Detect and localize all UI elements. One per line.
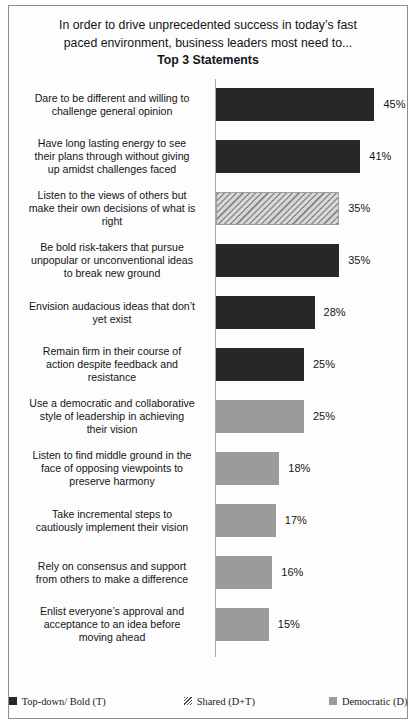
bar-category-label-line: Remain firm in their course of [13,345,211,358]
bar-track: 28% [216,296,407,329]
bar-value-label: 25% [313,410,335,422]
bar-row: Dare to be different and willing tochall… [9,79,407,131]
bar-category-label: Enlist everyone’s approval andacceptance… [13,605,211,645]
bar-category-label: Listen to find middle ground in theface … [13,449,211,489]
bar-track: 25% [216,400,407,433]
chart-legend: Top-down/ Bold (T)Shared (D+T)Democratic… [9,690,407,712]
plot-area: Dare to be different and willing tochall… [9,79,407,657]
bar-topdown[interactable] [216,244,339,277]
bar-category-label-line: to break new ground [13,267,211,280]
bar-category-label-line: challenge general opinion [13,105,211,118]
legend-label: Democratic (D) [342,696,407,707]
bar-row: Remain firm in their course ofaction des… [9,339,407,391]
bar-category-label-line: their vision [13,423,211,436]
bar-row: Listen to find middle ground in theface … [9,443,407,495]
bar-democratic[interactable] [216,452,279,485]
legend-swatch-topdown-icon [9,697,17,705]
bar-democratic[interactable] [216,504,276,537]
chart-title-line-2: paced environment, business leaders most… [25,35,391,53]
bar-row: Take incremental steps tocautiously impl… [9,495,407,547]
legend-label: Shared (D+T) [197,696,255,707]
bar-category-label-line: up amidst challenges faced [13,163,211,176]
bar-shared[interactable] [216,192,339,225]
legend-label: Top-down/ Bold (T) [22,696,106,707]
bar-track: 41% [216,140,407,173]
chart-container: In order to drive unprecedented success … [8,5,408,719]
bar-category-label: Envision audacious ideas that don’tyet e… [13,299,211,325]
bar-value-label: 18% [288,462,310,474]
bar-row: Enlist everyone’s approval andacceptance… [9,599,407,651]
bar-row: Envision audacious ideas that don’tyet e… [9,287,407,339]
bar-row: Listen to the views of others butmake th… [9,183,407,235]
bar-track: 15% [216,608,407,641]
bar-category-label-line: acceptance to an idea before [13,618,211,631]
bar-category-label: Take incremental steps tocautiously impl… [13,507,211,533]
bar-category-label: Rely on consensus and supportfrom others… [13,559,211,585]
bar-track: 18% [216,452,407,485]
bar-category-label-line: yet exist [13,313,211,326]
bar-category-label-line: make their own decisions of what is [13,202,211,215]
bar-row: Use a democratic and collaborativestyle … [9,391,407,443]
legend-item-shared[interactable]: Shared (D+T) [184,696,255,707]
bar-value-label: 35% [348,254,370,266]
bar-category-label-line: Use a democratic and collaborative [13,397,211,410]
bar-row: Have long lasting energy to seetheir pla… [9,131,407,183]
bar-topdown[interactable] [216,348,304,381]
legend-swatch-democratic-icon [329,697,337,705]
bar-track: 35% [216,192,407,225]
bar-category-label-line: face of opposing viewpoints to [13,462,211,475]
bar-category-label-line: Listen to the views of others but [13,189,211,202]
bar-track: 45% [216,88,407,121]
bar-category-label-line: Have long lasting energy to see [13,137,211,150]
bar-category-label: Use a democratic and collaborativestyle … [13,397,211,437]
bar-row: Be bold risk-takers that pursueunpopular… [9,235,407,287]
bar-category-label-line: action despite feedback and [13,358,211,371]
bar-topdown[interactable] [216,88,374,121]
bar-category-label-line: unpopular or unconventional ideas [13,254,211,267]
bar-category-label: Remain firm in their course ofaction des… [13,345,211,385]
bar-topdown[interactable] [216,140,360,173]
bar-value-label: 17% [285,514,307,526]
bar-track: 25% [216,348,407,381]
legend-item-democratic[interactable]: Democratic (D) [329,696,407,707]
bar-category-label-line: Listen to find middle ground in the [13,449,211,462]
bar-track: 16% [216,556,407,589]
bar-category-label-line: from others to make a difference [13,573,211,586]
bar-category-label-line: Dare to be different and willing to [13,91,211,104]
bar-value-label: 16% [281,566,303,578]
bar-value-label: 41% [369,150,391,162]
legend-item-topdown[interactable]: Top-down/ Bold (T) [9,696,106,707]
bar-democratic[interactable] [216,556,272,589]
bar-category-label-line: preserve harmony [13,475,211,488]
bar-value-label: 35% [348,202,370,214]
bar-track: 17% [216,504,407,537]
bar-democratic[interactable] [216,400,304,433]
bar-category-label: Listen to the views of others butmake th… [13,189,211,229]
bar-category-label-line: Rely on consensus and support [13,559,211,572]
bar-democratic[interactable] [216,608,269,641]
bar-topdown[interactable] [216,296,315,329]
bar-row: Rely on consensus and supportfrom others… [9,547,407,599]
bar-category-label: Have long lasting energy to seetheir pla… [13,137,211,177]
chart-title: In order to drive unprecedented success … [9,6,407,70]
chart-subtitle: Top 3 Statements [25,52,391,70]
bar-track: 35% [216,244,407,277]
bar-category-label-line: Be bold risk-takers that pursue [13,241,211,254]
bar-category-label-line: Envision audacious ideas that don’t [13,299,211,312]
chart-title-line-1: In order to drive unprecedented success … [25,17,391,35]
bar-category-label-line: right [13,215,211,228]
bar-category-label-line: style of leadership in achieving [13,410,211,423]
bar-category-label: Be bold risk-takers that pursueunpopular… [13,241,211,281]
bar-value-label: 15% [278,618,300,630]
bar-value-label: 28% [324,306,346,318]
bar-category-label-line: their plans through without giving [13,150,211,163]
bar-category-label-line: Take incremental steps to [13,507,211,520]
bar-category-label-line: Enlist everyone’s approval and [13,605,211,618]
bar-value-label: 25% [313,358,335,370]
bar-category-label: Dare to be different and willing tochall… [13,91,211,117]
bar-category-label-line: moving ahead [13,631,211,644]
bar-value-label: 45% [383,98,405,110]
bar-category-label-line: cautiously implement their vision [13,521,211,534]
bar-category-label-line: resistance [13,371,211,384]
legend-swatch-shared-icon [184,697,192,705]
